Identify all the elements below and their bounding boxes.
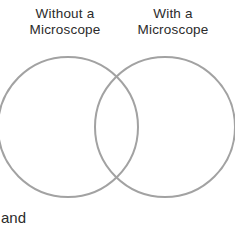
venn-circle-right xyxy=(95,57,235,197)
venn-diagram-figure: Without a Microscope With a Microscope a… xyxy=(0,0,235,225)
venn-label-left: Without a Microscope xyxy=(6,6,124,38)
clipped-caption-text: and xyxy=(1,210,121,225)
clipped-caption: and xyxy=(1,208,121,225)
venn-circle-left xyxy=(0,57,138,197)
venn-label-right: With a Microscope xyxy=(118,6,228,38)
